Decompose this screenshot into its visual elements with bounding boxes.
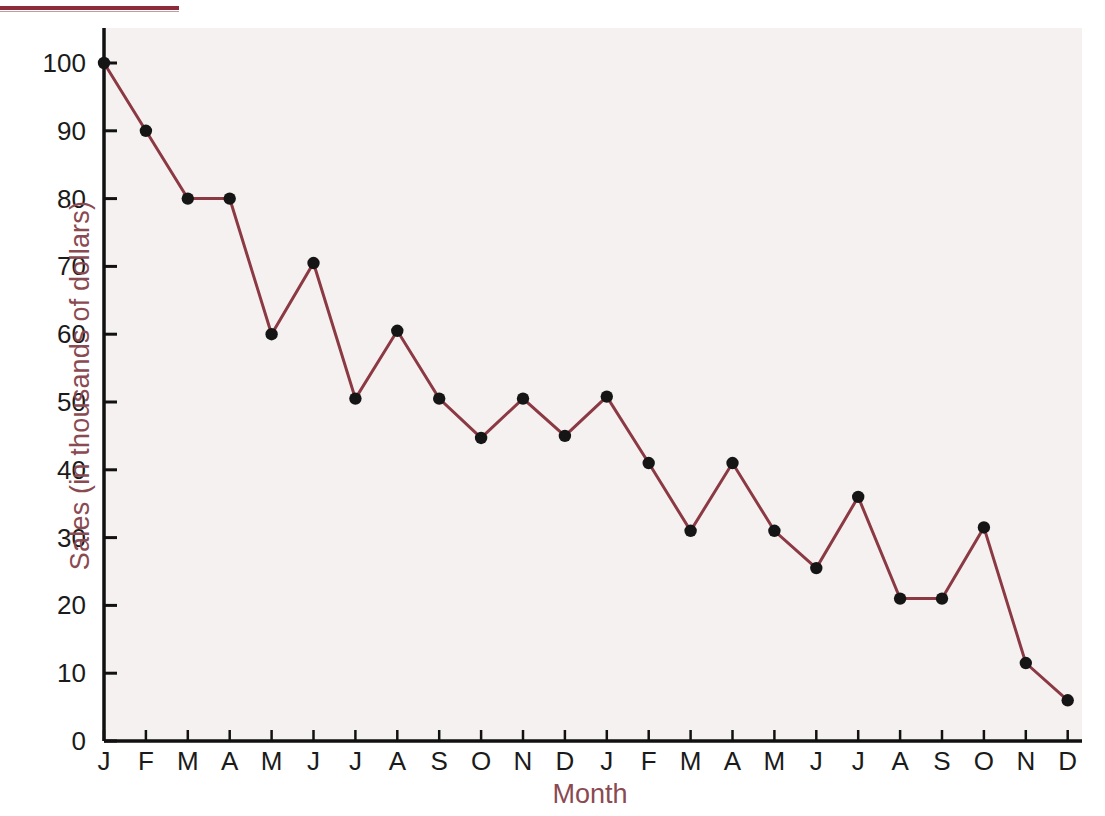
x-tick-label: J <box>294 748 334 774</box>
x-tick-label: F <box>126 748 166 774</box>
y-axis-title: Sales (in thousands of dollars) <box>65 76 96 696</box>
x-tick-label: J <box>796 748 836 774</box>
x-tick-label: J <box>335 748 375 774</box>
x-tick-label: S <box>419 748 459 774</box>
x-tick-label: A <box>210 748 250 774</box>
x-tick-label: M <box>168 748 208 774</box>
x-tick-label: O <box>964 748 1004 774</box>
plot-area <box>104 28 1082 741</box>
x-tick-label: F <box>629 748 669 774</box>
x-tick-label: J <box>587 748 627 774</box>
x-tick-label: A <box>880 748 920 774</box>
x-tick-label: N <box>503 748 543 774</box>
x-tick-label: M <box>671 748 711 774</box>
x-tick-label: M <box>754 748 794 774</box>
x-tick-label: J <box>84 748 124 774</box>
y-tick-label: 100 <box>26 50 86 76</box>
x-tick-label: A <box>713 748 753 774</box>
x-tick-label: A <box>377 748 417 774</box>
line-chart-figure: 0102030405060708090100 JFMAMJJASONDJFMAM… <box>0 0 1105 816</box>
x-tick-label: M <box>252 748 292 774</box>
x-axis-title: Month <box>104 779 1076 810</box>
x-tick-label: O <box>461 748 501 774</box>
x-tick-label: S <box>922 748 962 774</box>
x-tick-label: D <box>1048 748 1088 774</box>
x-tick-label: D <box>545 748 585 774</box>
x-tick-label: N <box>1006 748 1046 774</box>
x-tick-label: J <box>838 748 878 774</box>
